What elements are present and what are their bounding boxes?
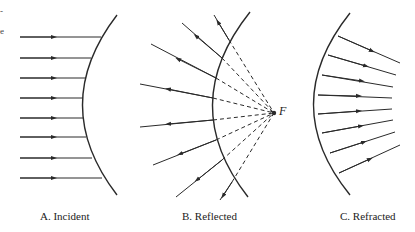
panel-b-reflected	[140, 12, 276, 200]
reflected-rays	[140, 15, 232, 200]
caption-incident: A. Incident	[40, 210, 89, 222]
surface-curve-b	[212, 12, 250, 197]
dashed-focus-lines	[213, 40, 274, 182]
caption-refracted: C. Refracted	[340, 210, 396, 222]
panel-a-incident	[20, 15, 117, 195]
refracted-rays	[318, 36, 400, 173]
incident-rays	[20, 37, 102, 178]
surface-curve-a	[83, 15, 118, 195]
caption-reflected: B. Reflected	[182, 210, 237, 222]
optics-diagram	[0, 0, 415, 232]
focus-label: F	[279, 104, 286, 119]
surface-curve-c	[314, 13, 351, 195]
panel-c-refracted	[314, 13, 401, 195]
focus-point	[272, 111, 276, 115]
